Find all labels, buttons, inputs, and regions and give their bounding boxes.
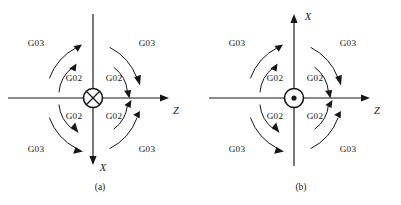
b-label-g03-upper-right: G03 <box>340 38 357 48</box>
a-label-g02-upper-right: G02 <box>106 73 123 83</box>
b-label-g03-upper-left: G03 <box>229 38 246 48</box>
panel-a-caption: (a) <box>0 182 200 192</box>
figure-root: G03 G02 G03 G02 G02 G03 G02 G03 Z X (a) <box>0 0 401 205</box>
a-axis-label-z: Z <box>173 105 179 116</box>
a-label-g02-lower-left: G02 <box>66 111 83 121</box>
a-label-g03-lower-left: G03 <box>28 144 45 154</box>
b-label-g02-lower-left: G02 <box>267 111 284 121</box>
a-axis-label-x: X <box>99 162 107 173</box>
b-label-g03-lower-left: G03 <box>229 144 246 154</box>
a-label-g03-lower-right: G03 <box>139 144 156 154</box>
a-label-g03-upper-left: G03 <box>28 38 45 48</box>
diagram-b-svg: G03 G02 G03 G02 G02 G03 G02 G03 Z X <box>201 0 401 205</box>
b-label-g02-upper-left: G02 <box>267 73 284 83</box>
b-center-hub-dotted-circle <box>285 89 304 108</box>
diagram-a-svg: G03 G02 G03 G02 G02 G03 G02 G03 Z X <box>0 0 200 205</box>
a-label-g02-upper-left: G02 <box>66 73 83 83</box>
a-label-g03-upper-right: G03 <box>139 38 156 48</box>
a-center-hub-crossed-circle <box>84 89 103 108</box>
b-axis-label-x: X <box>304 11 312 22</box>
b-label-g03-lower-right: G03 <box>340 144 357 154</box>
b-label-g02-lower-right: G02 <box>307 111 324 121</box>
diagram-panel-b: G03 G02 G03 G02 G02 G03 G02 G03 Z X (b) <box>201 0 401 205</box>
b-axis-label-z: Z <box>374 105 380 116</box>
diagram-panel-a: G03 G02 G03 G02 G02 G03 G02 G03 Z X (a) <box>0 0 200 205</box>
b-label-g02-upper-right: G02 <box>307 73 324 83</box>
panel-b-caption: (b) <box>201 182 401 192</box>
a-label-g02-lower-right: G02 <box>106 111 123 121</box>
